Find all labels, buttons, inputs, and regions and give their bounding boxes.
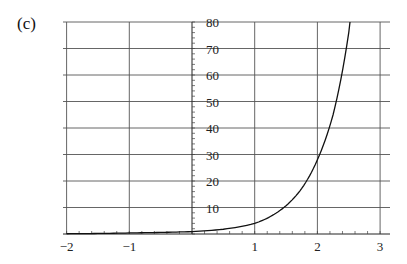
y-tick-label: 70 [206,42,219,57]
chart-plot: −2−11231020304050607080 [0,0,407,264]
y-tick-label: 20 [206,174,219,189]
x-tick-label: −1 [122,239,136,254]
x-tick-label: 3 [377,239,384,254]
x-tick-label: −2 [60,239,74,254]
y-tick-label: 30 [206,148,219,163]
y-tick-label: 60 [206,68,219,83]
y-tick-label: 50 [206,95,219,110]
x-tick-label: 1 [251,239,258,254]
y-tick-label: 40 [206,121,219,136]
x-tick-label: 2 [314,239,321,254]
y-tick-label: 80 [206,15,219,30]
y-tick-label: 10 [206,201,219,216]
